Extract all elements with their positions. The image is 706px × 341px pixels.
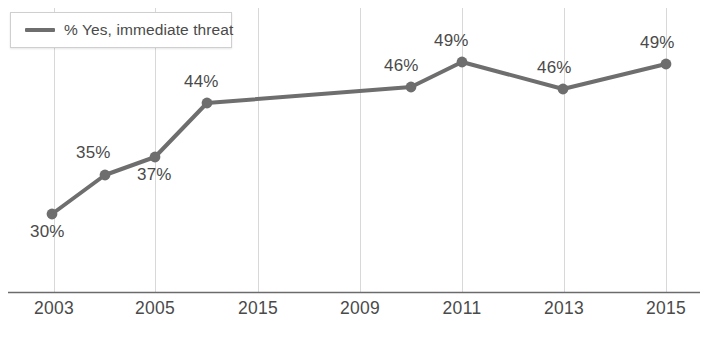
data-point-value-label: 46%	[537, 58, 572, 78]
data-point-marker[interactable]	[100, 170, 111, 181]
data-point-value-label: 49%	[434, 31, 469, 51]
legend-line-swatch	[25, 28, 55, 32]
data-point-marker[interactable]	[150, 152, 161, 163]
x-axis-tick-label: 2015	[238, 298, 278, 319]
data-point-value-label: 37%	[137, 165, 172, 185]
x-axis-tick-label: 2009	[340, 298, 380, 319]
x-axis-tick-label: 2015	[646, 298, 686, 319]
data-point-marker[interactable]	[406, 82, 417, 93]
data-point-marker[interactable]	[47, 209, 58, 220]
data-point-marker[interactable]	[202, 98, 213, 109]
x-axis-tick-label: 2005	[135, 298, 175, 319]
data-point-value-label: 35%	[76, 143, 111, 163]
line-chart: % Yes, immediate threat 30%35%37%44%46%4…	[0, 0, 706, 341]
legend[interactable]: % Yes, immediate threat	[10, 12, 232, 48]
x-axis-tick-label: 2003	[34, 298, 74, 319]
plot-svg	[0, 0, 706, 341]
data-point-marker[interactable]	[558, 84, 569, 95]
data-point-value-label: 46%	[384, 56, 419, 76]
x-axis-tick-label: 2013	[544, 298, 584, 319]
data-point-value-label: 30%	[30, 222, 65, 242]
data-point-marker[interactable]	[661, 59, 672, 70]
legend-label: % Yes, immediate threat	[64, 21, 233, 39]
data-point-value-label: 44%	[184, 72, 219, 92]
plot-area	[0, 0, 706, 341]
data-point-marker[interactable]	[457, 57, 468, 68]
data-line-series-1	[52, 62, 666, 214]
data-point-value-label: 49%	[640, 33, 675, 53]
x-axis-tick-label: 2011	[443, 298, 482, 319]
